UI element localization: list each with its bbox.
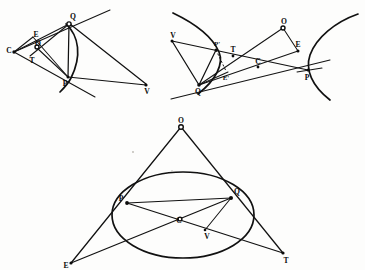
tangent-line-OQT	[181, 127, 283, 253]
chord-VP	[172, 41, 308, 70]
line-OP	[37, 48, 68, 77]
label-P-fig3: P	[119, 194, 124, 203]
label-C-fig2: C	[255, 57, 260, 66]
label-Eprime-fig2: E'	[223, 74, 230, 81]
label-C-fig1: C	[6, 46, 11, 55]
label-T-fig3: T	[283, 256, 288, 265]
chord-VQ	[172, 41, 199, 85]
vertex-point-O-fig3	[179, 125, 184, 130]
label-V-fig1: V	[144, 87, 150, 96]
vertex-point-E-fig2	[297, 50, 300, 53]
label-Pprime-fig2: P'	[214, 40, 220, 47]
chord-PQ	[127, 198, 231, 203]
label-O-fig3: O	[178, 116, 184, 125]
vertex-point-T-fig3	[281, 251, 284, 254]
label-Q-fig1: Q	[70, 12, 76, 21]
tangent-line-CQ	[14, 10, 110, 52]
vertex-point-T-fig2	[232, 55, 235, 58]
label-E-fig2: E	[295, 40, 300, 49]
hyperbola-right-branch	[308, 14, 358, 100]
label-C-fig3: C	[176, 216, 181, 225]
label-Q-fig3: Q	[234, 187, 240, 196]
chord-PT	[127, 203, 283, 253]
label-O-fig1: O	[35, 39, 41, 48]
vertex-point-P-fig2	[307, 69, 310, 72]
vertex-point-P-fig3	[125, 201, 129, 205]
chord-QP	[68, 24, 69, 77]
scan-speck-upper	[132, 151, 134, 153]
vertex-point-V-fig2	[171, 40, 174, 43]
label-T-fig1: T	[29, 56, 34, 65]
chord-PV	[68, 77, 146, 85]
line-QO	[199, 28, 283, 85]
vertex-point-Q	[67, 22, 71, 26]
figure-ellipse: O P Q C V E T	[63, 116, 288, 270]
label-P-fig1: P	[63, 79, 68, 88]
label-P-fig2: P	[305, 73, 310, 82]
figure-parabola: C E O T Q P V	[6, 10, 150, 97]
label-E-fig3: E	[63, 261, 68, 270]
vertex-point-Pprime	[215, 49, 218, 52]
vertex-point-C-fig2	[257, 66, 260, 69]
figure-hyperbola: V P' T O E C E' Q P	[170, 13, 358, 100]
label-Q-fig2: Q	[195, 87, 201, 96]
line-CQ	[14, 24, 69, 52]
label-O-fig2: O	[281, 17, 287, 26]
tangent-line-CP	[14, 52, 95, 97]
vertex-point-E-fig3	[69, 261, 72, 264]
label-E-fig1: E	[33, 30, 38, 39]
vertex-point-O-fig2	[281, 26, 285, 30]
vertex-point-Q-fig3	[229, 196, 233, 200]
figure-plate: C E O T Q P V	[0, 0, 365, 270]
label-V-fig2: V	[170, 31, 176, 40]
chord-QV	[70, 24, 146, 84]
ellipse-conic	[112, 172, 254, 258]
vertex-point-C	[12, 50, 15, 53]
conic-sections-drawing: C E O T Q P V	[0, 0, 365, 270]
scan-speck-lower	[171, 170, 173, 172]
label-V-fig3: V	[204, 232, 210, 241]
label-T-fig2: T	[230, 45, 235, 54]
tangent-line-OPE	[71, 127, 181, 263]
